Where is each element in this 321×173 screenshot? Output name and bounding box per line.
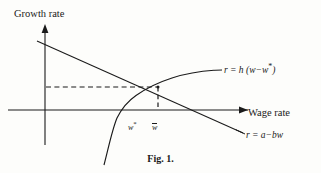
tick-w-bar-letter: w [152, 124, 157, 132]
figure-caption: Fig. 1. [0, 154, 321, 164]
tick-w-star-superscript: * [133, 120, 136, 127]
line-label-leader [236, 130, 245, 134]
y-axis-label: Growth rate [14, 9, 64, 20]
diagram-canvas [0, 0, 321, 173]
x-axis-label: Wage rate [248, 108, 290, 119]
figure-container: Growth rate Wage rate r = h (w−w*) r = a… [0, 0, 321, 173]
curve-label-close: ) [272, 65, 275, 75]
wage-growth-curve-label: r = h (w−w*) [224, 66, 275, 76]
wage-growth-curve [104, 70, 214, 165]
intersection-point [157, 86, 160, 89]
profit-rate-line-label: r = a−bw [246, 131, 283, 141]
arrow-up-icon [42, 24, 49, 33]
tick-label-w-star: w* [128, 124, 137, 132]
tick-label-w-bar: w [152, 124, 157, 132]
curve-label-prefix: r = h [224, 65, 244, 75]
arrow-right-icon [239, 106, 248, 113]
